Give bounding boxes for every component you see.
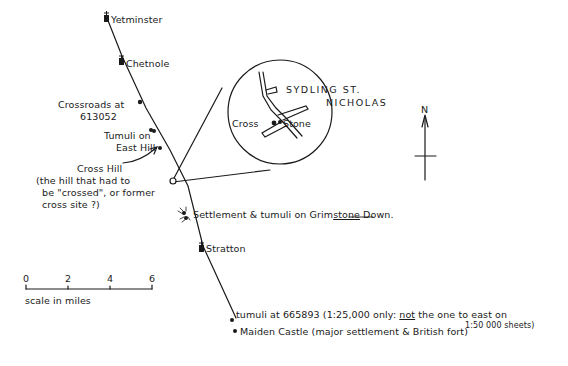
label-cross-hill-note-2: be "crossed", or former: [42, 187, 155, 198]
inset-title-1: SYDLING ST.: [286, 84, 361, 95]
label-tumuli-665893: tumuli at 665893 (1:25,000 only: not the…: [236, 309, 507, 320]
cross-hill-icon: [170, 178, 176, 184]
scale-tick-2: 2: [65, 273, 71, 284]
dot-icon-crossroads: [138, 100, 142, 104]
inset-title-2: NICHOLAS: [326, 97, 387, 108]
inset-stone-label: Stone: [283, 118, 311, 129]
dot-icon-tumuli-665893: [230, 318, 234, 322]
inset-connector-upper: [173, 88, 222, 180]
dot-icon-maiden-castle: [233, 329, 237, 333]
label-tumuli-east-hill-1: Tumuli on: [104, 130, 151, 141]
label-crossroads-1: Crossroads at: [58, 99, 124, 110]
label-settlement: Settlement & tumuli on GrimGrimstone Dow…: [193, 209, 394, 220]
inset-cross-label: Cross: [232, 118, 259, 129]
church-icon-yetminster: [104, 15, 109, 22]
scale-tick-4: 4: [107, 273, 113, 284]
scale-caption: scale in miles: [25, 295, 91, 306]
label-tumuli-east-hill-2: East Hill: [116, 142, 155, 153]
scale-tick-0: 0: [23, 273, 29, 284]
label-stratton: Stratton: [206, 243, 246, 254]
label-cross-hill-note-3: cross site ?): [42, 199, 100, 210]
grimstone: Grimstone: [310, 209, 360, 220]
scale-tick-6: 6: [149, 273, 155, 284]
inset-connector-lower: [173, 170, 270, 182]
label-maiden-castle: Maiden Castle (major settlement & Britis…: [240, 326, 468, 337]
label-crossroads-2: 613052: [80, 111, 117, 122]
north-label: N: [421, 104, 428, 115]
label-chetnole: Chetnole: [126, 58, 169, 69]
label-tumuli-665893-2: 1:50 000 sheets): [465, 320, 534, 331]
label-cross-hill: Cross Hill: [77, 163, 122, 174]
settlement-icon: [182, 211, 186, 215]
church-icon-stratton: [199, 245, 204, 252]
label-cross-hill-note-1: (the hill that had to: [36, 175, 130, 186]
label-yetminster: Yetminster: [111, 14, 162, 25]
church-icon-chetnole: [119, 58, 124, 65]
